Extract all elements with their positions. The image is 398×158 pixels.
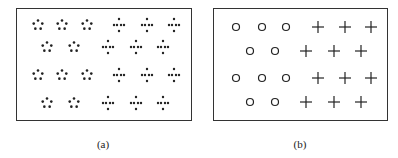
circle-marker bbox=[283, 75, 290, 82]
dot-cross-marker bbox=[168, 68, 180, 82]
diagram-canvas bbox=[0, 0, 398, 158]
dot-cross-marker bbox=[157, 40, 169, 54]
dot-pentagon-marker bbox=[56, 69, 67, 80]
plus-marker bbox=[312, 21, 324, 33]
dot-pentagon-marker bbox=[68, 97, 79, 108]
circle-marker bbox=[233, 24, 240, 31]
circle-marker bbox=[272, 99, 279, 106]
circle-marker bbox=[259, 24, 266, 31]
dot-cross-marker bbox=[113, 68, 125, 82]
plus-marker bbox=[339, 72, 351, 84]
dot-pentagon-marker bbox=[41, 97, 52, 108]
circle-marker bbox=[247, 48, 254, 55]
circle-marker bbox=[259, 75, 266, 82]
caption-a: (a) bbox=[97, 138, 109, 150]
dot-cross-marker bbox=[130, 40, 142, 54]
plus-marker bbox=[328, 96, 340, 108]
plus-marker bbox=[300, 45, 312, 57]
dot-cross-marker bbox=[113, 18, 125, 32]
dot-pentagon-marker bbox=[56, 19, 67, 30]
plus-marker bbox=[328, 45, 340, 57]
dot-cross-marker bbox=[141, 68, 153, 82]
dot-pentagon-marker bbox=[41, 41, 52, 52]
dot-cross-marker bbox=[157, 96, 169, 110]
dot-pentagon-marker bbox=[81, 69, 92, 80]
dot-cross-marker bbox=[130, 96, 142, 110]
dot-cross-marker bbox=[168, 18, 180, 32]
plus-marker bbox=[312, 72, 324, 84]
circle-marker bbox=[233, 75, 240, 82]
circle-marker bbox=[272, 48, 279, 55]
dot-cross-marker bbox=[102, 96, 114, 110]
dot-pentagon-marker bbox=[32, 69, 43, 80]
caption-b: (b) bbox=[294, 138, 307, 150]
dot-cross-marker bbox=[102, 40, 114, 54]
plus-marker bbox=[365, 72, 377, 84]
plus-marker bbox=[355, 45, 367, 57]
plus-marker bbox=[300, 96, 312, 108]
plus-marker bbox=[365, 21, 377, 33]
circle-marker bbox=[247, 99, 254, 106]
plus-marker bbox=[355, 96, 367, 108]
plus-marker bbox=[339, 21, 351, 33]
dot-pentagon-marker bbox=[81, 19, 92, 30]
dot-pentagon-marker bbox=[32, 19, 43, 30]
dot-pentagon-marker bbox=[68, 41, 79, 52]
dot-cross-marker bbox=[141, 18, 153, 32]
circle-marker bbox=[283, 24, 290, 31]
